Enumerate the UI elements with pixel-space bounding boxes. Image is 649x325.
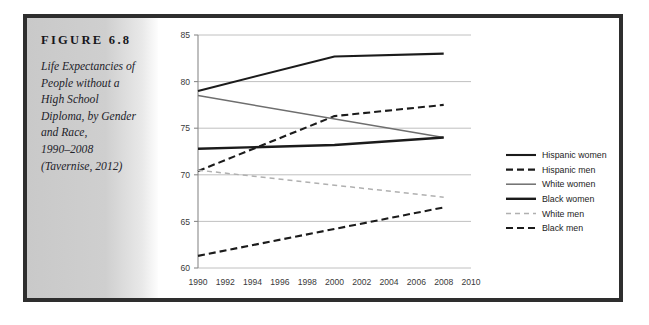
y-axis-tick-labels: 606570758085 [180,30,190,273]
x-axis-tick-label: 1996 [270,277,289,287]
x-axis-tick-label: 2010 [461,277,480,287]
x-axis-tick-label: 2000 [325,277,344,287]
figure-caption-panel: FIGURE 6.8 Life Expectancies of People w… [27,18,158,298]
x-axis-tick-labels: 1990199219941996199820002002200420062008… [188,277,480,287]
legend-label-black-women: Black women [542,194,594,204]
chart-legend: Hispanic womenHispanic menWhite womenBla… [506,150,607,233]
legend-label-white-men: White men [542,209,584,219]
series-line-black-women [198,138,444,149]
y-axis-tick-label: 70 [180,170,190,180]
figure-number-label: FIGURE 6.8 [41,33,146,48]
legend-label-white-women: White women [542,179,595,189]
series-line-black-men [198,207,444,255]
figure-container: FIGURE 6.8 Life Expectancies of People w… [0,0,649,325]
x-axis-tick-label: 1990 [188,277,207,287]
x-axis-tick-label: 2006 [407,277,426,287]
x-axis-tick-label: 1998 [298,277,317,287]
y-axis-tick-label: 80 [180,77,190,87]
chart-series-group [198,54,444,256]
caption-line: Diploma, by Gender [41,109,146,126]
chart-gridlines [198,35,471,268]
y-axis-tick-label: 85 [180,30,190,40]
caption-line: High School [41,92,146,109]
x-axis-tick-label: 1994 [243,277,262,287]
x-axis-tick-label: 2002 [352,277,371,287]
legend-label-black-men: Black men [542,223,583,233]
caption-line: and Race, [41,125,146,142]
caption-line: Life Expectancies of [41,59,146,76]
caption-line: People without a [41,76,146,93]
caption-line: 1990–2008 [41,142,146,159]
line-chart: 606570758085 199019921994199619982000200… [158,18,619,298]
figure-caption-text: Life Expectancies of People without a Hi… [41,59,146,175]
series-line-white-women [198,96,444,138]
y-axis-tick-label: 75 [180,123,190,133]
legend-label-hispanic-women: Hispanic women [542,150,607,160]
series-line-hispanic-women [198,54,444,91]
caption-line: (Tavernise, 2012) [41,159,146,176]
figure-frame: FIGURE 6.8 Life Expectancies of People w… [23,14,623,302]
y-axis-tick-label: 65 [180,217,190,227]
series-line-hispanic-men [198,105,444,171]
series-line-white-men [198,170,444,197]
chart-area: 606570758085 199019921994199619982000200… [158,18,619,298]
x-axis-tick-label: 2004 [380,277,399,287]
chart-axes [194,35,198,268]
y-axis-tick-label: 60 [180,263,190,273]
x-axis-tick-label: 2008 [434,277,453,287]
x-axis-tick-label: 1992 [216,277,235,287]
legend-label-hispanic-men: Hispanic men [542,165,595,175]
